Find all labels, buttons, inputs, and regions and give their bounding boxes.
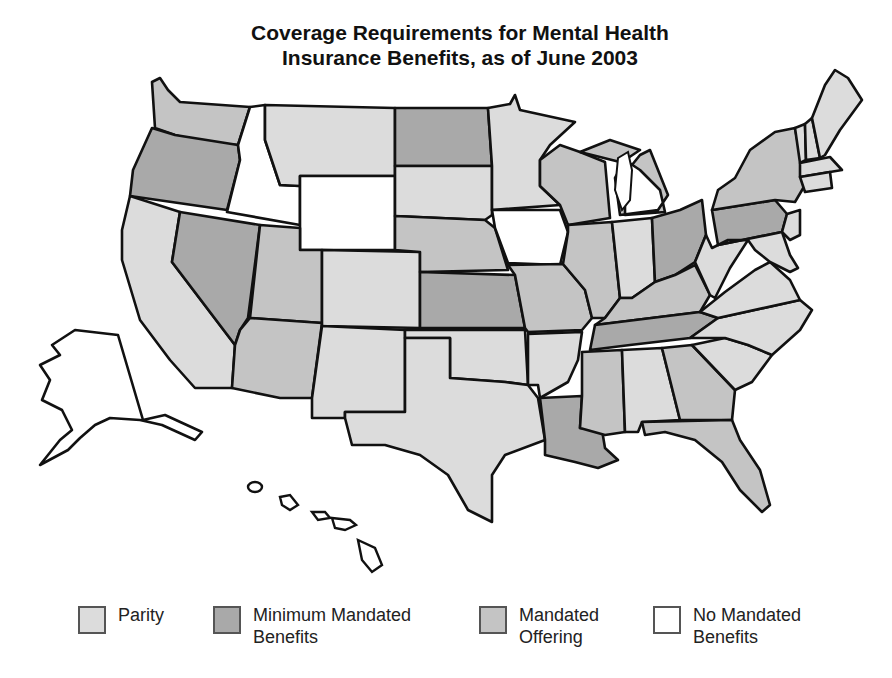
legend-label-parity: Parity [118,604,164,626]
us-map [0,0,892,600]
state-co[interactable] [322,250,420,328]
legend-swatch-parity [78,606,106,634]
state-sd[interactable] [395,166,492,220]
legend-item-minimum-mandated: Minimum Mandated Benefits [213,604,411,648]
state-ks[interactable] [420,272,525,328]
state-az[interactable] [232,318,322,398]
state-wy[interactable] [300,176,395,250]
legend-label-no-mandated-1: No Mandated [693,604,801,626]
state-mt[interactable] [265,105,395,186]
legend-item-mandated-offering: Mandated Offering [479,604,599,648]
state-ct-ri[interactable] [800,172,832,192]
state-fl[interactable] [642,420,770,512]
state-nm[interactable] [312,326,405,418]
state-nd[interactable] [395,108,492,166]
legend-item-parity: Parity [78,604,164,634]
legend-label-mandated-offering-2: Offering [519,626,599,648]
state-ny[interactable] [712,128,805,210]
legend-item-no-mandated: No Mandated Benefits [653,604,801,648]
legend: Parity Minimum Mandated Benefits Mandate… [0,604,892,664]
legend-label-minimum-mandated-2: Benefits [253,626,411,648]
legend-label-no-mandated-2: Benefits [693,626,801,648]
state-ar[interactable] [528,332,582,398]
state-me[interactable] [812,70,862,158]
legend-swatch-no-mandated [653,606,681,634]
legend-swatch-mandated-offering [479,606,507,634]
states [122,70,862,522]
state-hi[interactable] [248,482,382,572]
state-ms[interactable] [580,350,625,435]
legend-swatch-minimum-mandated [213,606,241,634]
legend-label-minimum-mandated-1: Minimum Mandated [253,604,411,626]
legend-label-mandated-offering-1: Mandated [519,604,599,626]
